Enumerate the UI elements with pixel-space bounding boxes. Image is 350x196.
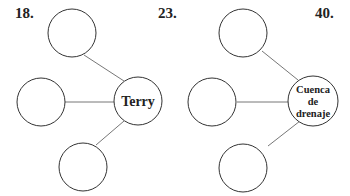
empty-node-left[interactable] [17,78,65,126]
concept-map-terry: Terry [17,9,162,191]
empty-node-top[interactable] [219,9,267,57]
empty-node-top[interactable] [48,9,96,57]
concept-maps: Terry Cuenca de drenaje [0,0,350,196]
center-label-cuenca-line1: Cuenca [296,84,331,95]
empty-node-bottom[interactable] [59,143,107,191]
center-label-terry: Terry [121,94,155,109]
empty-node-left[interactable] [188,78,236,126]
center-label-cuenca-line3: drenaje [296,108,331,119]
empty-node-bottom[interactable] [219,144,267,192]
center-label-cuenca-line2: de [308,96,319,107]
concept-map-cuenca: Cuenca de drenaje [188,9,338,192]
